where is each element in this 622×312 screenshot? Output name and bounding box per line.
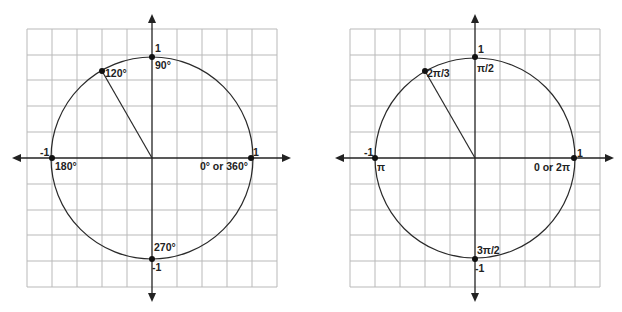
y-axis-top-arrow-icon [148, 14, 156, 23]
label-right-value: 1 [577, 147, 583, 159]
x-axis-right-arrow-icon [605, 154, 614, 162]
unit-circle-radians: 1 π/2 2π/3 -1 π 1 0 or 2π 3π/2 -1 [335, 14, 614, 302]
label-0-360-deg: 0° or 360° [200, 160, 248, 172]
label-3pi-2: 3π/2 [477, 244, 500, 256]
label-bottom-value: -1 [152, 261, 161, 273]
label-bottom-value: -1 [475, 262, 484, 274]
y-axis-bottom-arrow-icon [148, 293, 156, 302]
label-right-value: 1 [253, 146, 259, 158]
x-axis-left-arrow-icon [12, 154, 21, 162]
label-left-value: -1 [364, 146, 373, 158]
label-top-value: 1 [155, 42, 161, 54]
x-axis-left-arrow-icon [335, 154, 344, 162]
label-0-or-2pi: 0 or 2π [534, 161, 570, 173]
x-axis-right-arrow-icon [282, 154, 291, 162]
label-top-value: 1 [478, 43, 484, 55]
label-90-deg: 90° [155, 59, 171, 71]
unit-circle-figure: 1 90° 120° -1 180° 1 0° or 360° 270° -1 [0, 0, 622, 312]
label-180-deg: 180° [55, 160, 77, 172]
label-2pi-3: 2π/3 [427, 67, 450, 79]
label-pi: π [377, 161, 385, 173]
y-axis-bottom-arrow-icon [471, 293, 479, 302]
label-left-value: -1 [40, 146, 49, 158]
label-pi-2: π/2 [477, 62, 494, 74]
label-270-deg: 270° [154, 241, 176, 253]
label-120-deg: 120° [105, 67, 127, 79]
unit-circle-degrees: 1 90° 120° -1 180° 1 0° or 360° 270° -1 [12, 14, 291, 302]
y-axis-top-arrow-icon [471, 14, 479, 23]
